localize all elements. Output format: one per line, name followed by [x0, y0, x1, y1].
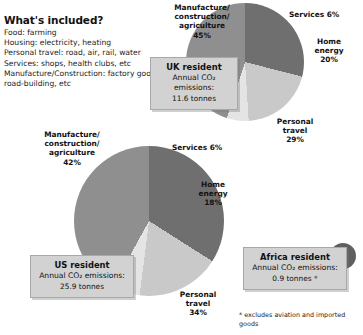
us-callout-value: 25.9 tonnes: [36, 281, 128, 292]
us-callout-metric: Annual CO₂ emissions:: [36, 271, 128, 281]
infographic-canvas: What's included? Food: farming Housing: …: [0, 0, 363, 335]
us-label-home-energy: Homeenergy18%: [188, 180, 238, 208]
uk-callout-title: UK resident: [156, 62, 232, 73]
us-label-manufacture: Manufacture/construction/agriculture42%: [36, 130, 108, 167]
list-item: Food: farming: [4, 28, 176, 38]
uk-label-manufacture: Manufacture/construction/agriculture45%: [168, 3, 236, 40]
whats-included-heading: What's included?: [4, 14, 176, 26]
uk-label-services: Services 6%: [289, 10, 351, 19]
uk-label-personal-travel: Personaltravel29%: [268, 117, 322, 145]
us-callout-box: US resident Annual CO₂ emissions: 25.9 t…: [30, 255, 134, 298]
africa-callout-value: 0.9 tonnes *: [249, 273, 341, 284]
footnote: * excludes aviation and imported goods: [239, 311, 363, 329]
us-callout-title: US resident: [36, 260, 128, 271]
us-label-services: Services 6%: [172, 143, 232, 152]
uk-label-home-energy: Homeenergy20%: [303, 37, 355, 65]
africa-callout-title: Africa resident: [249, 252, 341, 263]
uk-callout-metric: Annual CO₂ emissions:: [156, 73, 232, 93]
list-item: Manufacture/Construction: factory goods,…: [4, 69, 164, 89]
uk-callout-value: 11.6 tonnes: [156, 93, 232, 104]
us-label-personal-travel: Personaltravel34%: [170, 290, 226, 318]
africa-callout-box: Africa resident Annual CO₂ emissions: 0.…: [243, 247, 347, 290]
africa-callout-metric: Annual CO₂ emissions:: [249, 263, 341, 273]
list-item: Housing: electricity, heating: [4, 38, 176, 48]
uk-callout-box: UK resident Annual CO₂ emissions: 11.6 t…: [150, 57, 238, 110]
